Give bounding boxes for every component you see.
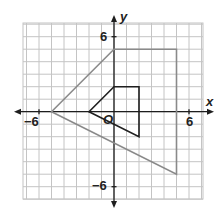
y-axis-arrow-down-icon — [111, 201, 117, 208]
x-axis-arrow-right-icon — [207, 109, 214, 115]
coordinate-plane: x y O −6 6 6 −6 — [0, 0, 223, 215]
y-axis-label: y — [119, 9, 128, 24]
origin-label: O — [103, 112, 113, 127]
x-tick-label-6: 6 — [186, 114, 193, 129]
x-axis-arrow-left-icon — [14, 109, 21, 115]
y-tick-label-neg6: −6 — [92, 178, 107, 193]
x-axis-label: x — [205, 94, 214, 109]
x-tick-label-neg6: −6 — [24, 114, 39, 129]
y-axis-arrow-up-icon — [111, 15, 117, 22]
y-tick-label-6: 6 — [100, 29, 107, 44]
axes — [14, 15, 214, 208]
